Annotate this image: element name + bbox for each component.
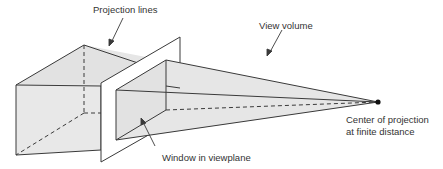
- diagram-canvas: [0, 0, 443, 169]
- label-projection-lines: Projection lines: [93, 4, 157, 16]
- label-finite-distance: at finite distance: [346, 126, 415, 138]
- label-center-of-projection: Center of projection: [346, 114, 429, 126]
- view-volume: [116, 60, 378, 140]
- label-view-volume: View volume: [259, 20, 313, 32]
- center-of-projection-point: [375, 99, 380, 104]
- label-window-in-viewplane: Window in viewplane: [162, 152, 251, 164]
